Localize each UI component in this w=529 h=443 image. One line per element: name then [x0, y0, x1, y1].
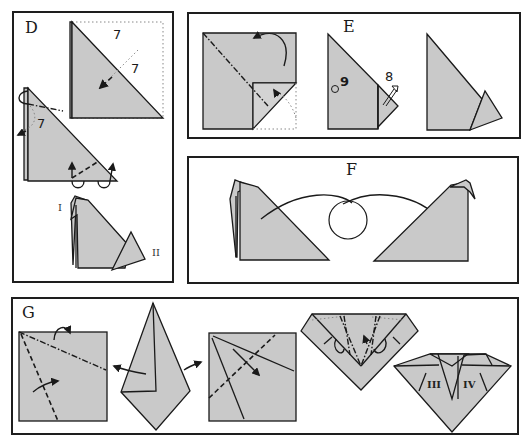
paper-body	[427, 34, 482, 130]
panel-e: E 9 8	[188, 13, 520, 138]
panel-g-step-2	[114, 303, 201, 430]
part-label-iv: IV	[463, 379, 476, 390]
tail-flap	[378, 85, 398, 127]
paper-square	[19, 332, 107, 421]
step-number: 9	[340, 74, 349, 89]
panel-g-step-4	[301, 314, 418, 390]
turn-over-circle-icon	[329, 201, 367, 239]
panel-g-step-5: III IV	[394, 354, 511, 432]
panel-g-step-1	[19, 328, 107, 421]
panel-f-figure-right	[374, 180, 475, 261]
panel-e-label: E	[343, 17, 355, 36]
panel-e-step-2: 9 8	[328, 34, 398, 129]
step-number: 7	[37, 116, 45, 131]
panel-g: G	[12, 298, 518, 434]
unfold-arrow-right	[184, 362, 201, 370]
panel-d-step-3: I II	[58, 196, 160, 270]
paper-triangle	[328, 34, 378, 129]
step-number: 7	[113, 27, 121, 42]
origami-diagram: D 7 7 7	[0, 0, 529, 443]
panel-g-label: G	[22, 303, 35, 322]
panel-e-step-1	[203, 33, 296, 129]
step-number: 7	[131, 61, 139, 76]
part-label-ii: II	[152, 247, 160, 258]
panel-d-step-1: 7 7	[70, 22, 163, 118]
body-shape	[374, 182, 468, 261]
loop-arrow	[72, 181, 84, 188]
part-label-iii: III	[427, 379, 441, 390]
part-label-i: I	[58, 202, 62, 213]
panel-e-step-3	[427, 34, 502, 130]
paper-square	[209, 333, 296, 421]
panel-g-step-3	[209, 333, 296, 421]
step-number: 8	[385, 69, 393, 84]
panel-f-label: F	[346, 160, 357, 179]
body-shape	[240, 182, 329, 260]
panel-d: D 7 7 7	[13, 12, 173, 282]
panel-f: F	[188, 157, 518, 283]
paper-shape	[301, 314, 418, 390]
paper-square	[203, 33, 296, 129]
panel-f-figure-left	[230, 180, 329, 260]
panel-d-label: D	[25, 18, 38, 37]
